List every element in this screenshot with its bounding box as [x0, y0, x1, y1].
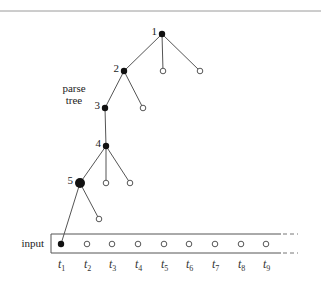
token-label: t8 — [238, 257, 245, 273]
node-label: 5 — [68, 174, 74, 186]
node-label: 3 — [95, 99, 101, 111]
expanded-node-1-icon — [159, 31, 165, 37]
unexpanded-node-icon — [140, 105, 146, 111]
input-tokens: t1t2t3t4t5t6t7t8t9 — [58, 241, 271, 273]
expanded-node-5-icon — [75, 178, 85, 188]
token-label: t1 — [58, 257, 65, 273]
unexpanded-node-icon — [127, 180, 133, 186]
token-6-icon — [186, 241, 192, 247]
unexpanded-node-icon — [160, 68, 166, 74]
tree-edge — [162, 34, 163, 71]
expanded-node-4-icon — [103, 143, 109, 149]
token-5-icon — [161, 241, 167, 247]
token-label: t2 — [84, 257, 91, 273]
token-8-icon — [238, 241, 244, 247]
token-label: t3 — [109, 257, 116, 273]
token-2-icon — [84, 241, 90, 247]
tree-edge — [162, 34, 200, 71]
unexpanded-node-icon — [96, 216, 102, 222]
tree-edge — [106, 146, 130, 183]
unexpanded-node-icon — [197, 68, 203, 74]
node-label: 4 — [96, 137, 102, 149]
tree-edge — [61, 183, 80, 244]
token-1-icon — [58, 241, 64, 247]
tree-edge — [80, 183, 99, 219]
parse-tree-label-line1: parse — [62, 82, 85, 94]
unexpanded-node-icon — [103, 180, 109, 186]
tree-edge — [105, 71, 124, 108]
token-3-icon — [109, 241, 115, 247]
tree-edge — [80, 146, 106, 183]
expanded-node-2-icon — [121, 68, 127, 74]
tree-edge — [105, 108, 106, 146]
tree-edge — [124, 34, 162, 71]
tree-edge — [124, 71, 143, 108]
token-9-icon — [263, 241, 269, 247]
token-label: t6 — [186, 257, 193, 273]
token-label: t5 — [161, 257, 168, 273]
token-label: t7 — [212, 257, 219, 273]
token-label: t4 — [135, 257, 142, 273]
tree-edges — [61, 34, 200, 244]
diagram-canvas: 12345 t1t2t3t4t5t6t7t8t9 parse tree inpu… — [0, 0, 323, 288]
parse-tree-label-line2: tree — [66, 94, 83, 106]
token-7-icon — [212, 241, 218, 247]
token-label: t9 — [263, 257, 270, 273]
expanded-node-3-icon — [102, 105, 108, 111]
token-4-icon — [135, 241, 141, 247]
node-label: 1 — [152, 25, 158, 37]
node-label: 2 — [114, 62, 120, 74]
parse-tree-diagram: 12345 t1t2t3t4t5t6t7t8t9 parse tree inpu… — [0, 0, 323, 288]
input-label: input — [21, 237, 44, 249]
